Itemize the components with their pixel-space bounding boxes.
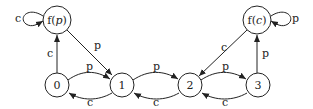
edge-label-2-1: c bbox=[153, 96, 159, 109]
node-fc: f(c) bbox=[243, 6, 271, 34]
edge-label-fp-1: p bbox=[94, 39, 101, 52]
edge-label-1-2: p bbox=[153, 60, 160, 73]
node-1: 1 bbox=[110, 73, 134, 97]
node-fc-label: f(c) bbox=[248, 14, 267, 27]
edge-label-3-2: c bbox=[222, 96, 228, 109]
edge-label-3-fc: p bbox=[262, 47, 269, 60]
node-2: 2 bbox=[178, 73, 202, 97]
edge-label-1-0: c bbox=[87, 96, 93, 109]
edge-1-2 bbox=[133, 72, 178, 80]
edge-fc-self bbox=[271, 12, 291, 26]
edge-label-fc-2: c bbox=[221, 41, 227, 54]
edge-label-fp-self: c bbox=[15, 12, 21, 25]
node-3-label: 3 bbox=[255, 79, 262, 92]
edge-label-2-3: p bbox=[222, 60, 229, 73]
node-0-label: 0 bbox=[54, 79, 61, 92]
state-diagram: c c p p c p c p c p c p f(p) f(c) 0 1 bbox=[0, 0, 313, 109]
node-3: 3 bbox=[246, 73, 270, 97]
node-1-label: 1 bbox=[119, 79, 126, 92]
edge-label-0-fp: c bbox=[47, 47, 53, 60]
edge-0-1 bbox=[68, 72, 110, 80]
node-0: 0 bbox=[45, 73, 69, 97]
edge-fp-self bbox=[23, 12, 43, 26]
edge-2-3 bbox=[201, 72, 246, 80]
node-2-label: 2 bbox=[187, 79, 194, 92]
edge-label-0-1: p bbox=[86, 60, 93, 73]
node-fp-label: f(p) bbox=[47, 14, 67, 27]
node-fp: f(p) bbox=[43, 6, 71, 34]
edge-label-fc-self: p bbox=[292, 12, 299, 25]
